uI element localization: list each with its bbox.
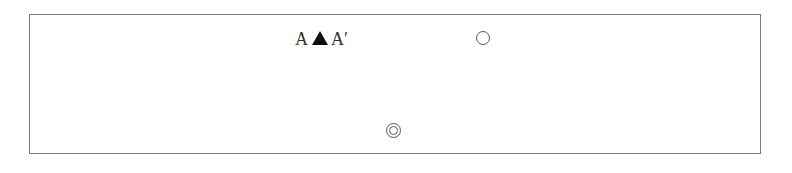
label-left-letter: A [295,29,308,50]
open-circle-icon [476,31,490,45]
section-label: A A′ [295,27,348,51]
double-circle-icon [386,123,401,138]
label-right-letter: A′ [331,29,348,50]
filled-triangle-icon [312,31,328,45]
double-circle-inner-ring [389,126,398,135]
